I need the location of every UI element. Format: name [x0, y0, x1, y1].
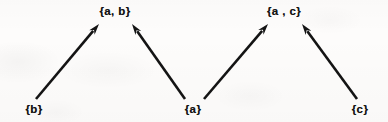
node-label-b: {b}	[25, 104, 42, 116]
node-label-a: {a}	[185, 104, 202, 116]
diagram-canvas: {a, b}{a , c}{b}{a}{c}	[0, 0, 388, 122]
edge-arrow	[36, 24, 99, 99]
node-label-ab: {a, b}	[99, 6, 130, 18]
edge-shaft	[204, 31, 262, 99]
node-label-c: {c}	[352, 104, 369, 116]
node-label-ac: {a , c}	[267, 6, 301, 18]
edge-shaft	[36, 31, 93, 99]
edge-arrow	[302, 24, 357, 99]
edge-shaft	[137, 31, 185, 99]
edge-shaft	[307, 31, 357, 99]
edge-arrow	[132, 24, 185, 99]
edge-arrow	[204, 24, 268, 99]
